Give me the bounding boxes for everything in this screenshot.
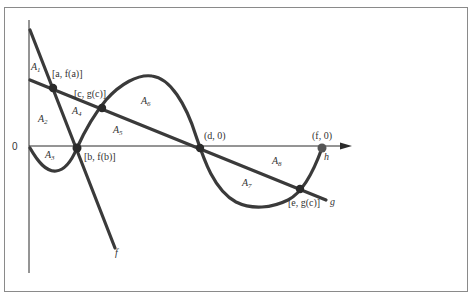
point-c-label: [c, g(c)] <box>74 88 106 100</box>
region-a6-label: A6 <box>140 95 151 108</box>
curve-h-label: h <box>324 151 329 162</box>
point-e-marker <box>296 185 304 193</box>
region-a4-label: A4 <box>71 105 82 118</box>
x-axis-arrow-icon <box>340 143 352 150</box>
point-e-label: [e, g(c)] <box>288 197 320 209</box>
region-a7-label: A7 <box>241 177 252 190</box>
region-a8-label: A8 <box>271 155 282 168</box>
point-f-label: (f, 0) <box>312 130 332 142</box>
point-b-marker <box>73 144 82 153</box>
point-a-marker <box>49 84 57 92</box>
point-c-marker <box>98 104 106 112</box>
area-between-curves-diagram: 0 [a, f(a)] [c, g(c)] [b, f(b)] (d, 0) (… <box>0 0 473 296</box>
point-d-marker <box>196 144 204 152</box>
curve-f-label: f <box>115 247 119 258</box>
point-b-label: [b, f(b)] <box>84 151 116 163</box>
curve-f <box>30 30 115 248</box>
region-a5-label: A5 <box>112 124 123 137</box>
region-a1-label: A1 <box>30 61 41 74</box>
origin-label: 0 <box>12 141 18 152</box>
region-a2-label: A2 <box>37 113 48 126</box>
region-a3-label: A3 <box>44 149 55 162</box>
point-d-label: (d, 0) <box>204 130 226 142</box>
point-a-label: [a, f(a)] <box>52 68 83 80</box>
curve-g-label: g <box>330 196 335 207</box>
